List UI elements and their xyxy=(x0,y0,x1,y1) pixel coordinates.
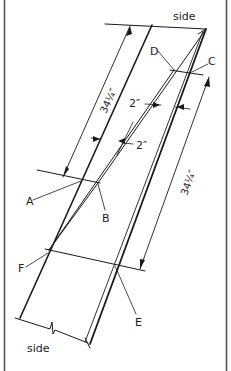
bottom-side-edge xyxy=(15,318,88,343)
label-point-b: B xyxy=(102,212,110,225)
board-left-edge xyxy=(20,25,152,318)
arrow-right-dim-bottom xyxy=(140,259,145,269)
label-point-e: E xyxy=(135,316,142,329)
label-2in-lower: 2″ xyxy=(136,139,147,152)
arrow-left-dim-bottom xyxy=(63,166,69,177)
leader-d xyxy=(158,51,174,70)
arrow-2in-upper-a xyxy=(153,102,160,108)
cross-line-ab xyxy=(37,170,100,183)
label-side-top: side xyxy=(173,10,196,23)
leader-c xyxy=(192,64,208,72)
diagonal-line-from-b xyxy=(49,183,98,250)
top-side-edge xyxy=(105,24,206,29)
leader-b xyxy=(98,184,105,210)
arrow-2in-lower-b xyxy=(118,138,125,144)
diagram-canvas: side D C 2″ 2″ 34¼″ 34¼″ A B F E side xyxy=(0,0,231,371)
label-point-f: F xyxy=(18,262,24,275)
label-side-bottom: side xyxy=(27,342,50,355)
bottom-tick xyxy=(85,338,90,348)
label-2in-upper: 2″ xyxy=(129,97,140,110)
arrow-right-dim-top xyxy=(204,77,210,87)
label-dim-right: 34¼″ xyxy=(179,168,198,197)
label-point-a: A xyxy=(26,195,34,208)
cross-line-fe xyxy=(45,249,145,271)
label-point-d: D xyxy=(150,45,158,58)
board-layout-drawing: side D C 2″ 2″ 34¼″ 34¼″ A B F E side xyxy=(0,0,231,371)
leader-e xyxy=(115,266,136,314)
label-point-c: C xyxy=(208,55,216,68)
dimension-line-left xyxy=(63,26,130,177)
